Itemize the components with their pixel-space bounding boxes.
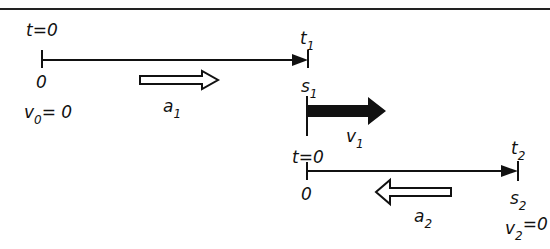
- phase1-displacement-arrowhead-icon: [292, 54, 308, 66]
- initial-velocity-label: v0= 0: [24, 102, 72, 127]
- phase1: t=0 0 a1 v0= 0 t1 s1: [24, 20, 318, 127]
- velocity-v1-label: v1: [346, 126, 364, 151]
- transition: v1: [307, 96, 386, 151]
- phase1-start-position-label: 0: [36, 72, 47, 92]
- acceleration-a1-label: a1: [163, 96, 181, 121]
- phase1-end-position-label: s1: [301, 76, 318, 101]
- phase1-start-time-label: t=0: [26, 20, 58, 40]
- phase2-displacement-arrowhead-icon: [501, 165, 518, 177]
- phase1-end-time-label: t1: [300, 28, 314, 53]
- final-velocity-label: v2=0: [505, 214, 548, 243]
- acceleration-a2-arrow-icon: [376, 180, 451, 204]
- acceleration-a1-arrow-icon: [140, 71, 218, 89]
- motion-diagram: t=0 0 a1 v0= 0 t1 s1 v1 t=0: [0, 0, 550, 249]
- phase2-end-position-label: s2: [510, 188, 527, 213]
- acceleration-a2-label: a2: [414, 206, 432, 231]
- phase2-end-time-label: t2: [511, 138, 525, 163]
- velocity-v1-arrow-icon: [308, 97, 386, 125]
- phase2: t=0 0 a2 t2 s2 v2=0: [292, 138, 548, 243]
- phase2-start-position-label: 0: [301, 184, 312, 204]
